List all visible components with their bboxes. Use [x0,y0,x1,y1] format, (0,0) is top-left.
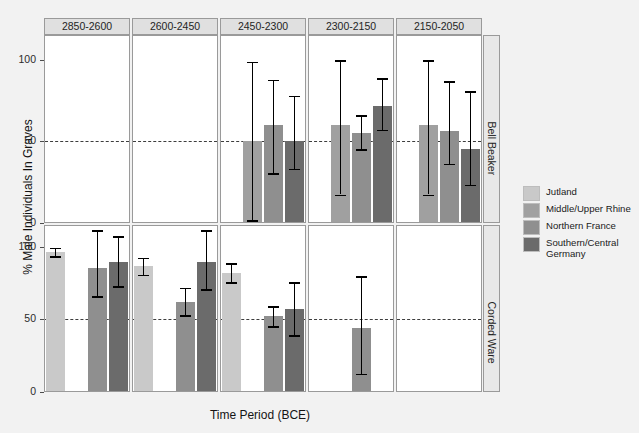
error-bar-line [340,60,342,194]
error-bar-line [97,230,99,296]
error-bar-line [361,276,363,374]
legend-label: Middle/Upper Rhine [546,203,637,214]
error-bar-cap-upper [377,78,388,80]
error-bar-line [118,236,120,286]
chart-panel [396,35,482,223]
chart-panel [220,225,306,392]
error-bar-cap-upper [247,62,258,64]
chart-panel [220,35,306,223]
error-bar-cap-lower [247,220,258,222]
error-bar-cap-lower [50,256,61,258]
error-bar-cap-lower [113,286,124,288]
chart-panel [44,35,130,223]
y-axis-tick-mark [40,223,44,224]
chart-panel [308,35,394,223]
error-bar-cap-lower [289,169,300,171]
error-bar-line [361,115,363,149]
chart-panel [132,35,218,223]
facet-strip-row-label: Corded Ware [486,301,498,316]
y-axis-tick-label: 50 [14,312,36,324]
legend-label: Southern/Central Germany [546,237,637,259]
chart-panel [44,225,130,392]
error-bar-cap-upper [50,248,61,250]
legend-swatch-northern-france [523,220,540,235]
error-bar-cap-upper [138,258,149,260]
y-axis-tick-mark [40,392,44,393]
error-bar-cap-upper [92,230,103,232]
bar [222,273,240,391]
error-bar-cap-lower [356,374,367,376]
legend-item: Northern France [523,220,637,235]
error-bar-cap-lower [180,315,191,317]
y-axis-tick-label: 100 [14,53,36,65]
chart-panel [308,225,394,392]
y-axis-label: % Male Individuals In Graves [21,77,35,317]
error-bar-cap-lower [268,173,279,175]
error-bar-cap-lower [201,289,212,291]
legend-label: Northern France [546,220,637,231]
error-bar-cap-upper [113,236,124,238]
legend-swatch-middle-upper-rhine [523,203,540,218]
error-bar-cap-lower [335,195,346,197]
error-bar-cap-upper [465,91,476,93]
legend-item: Southern/Central Germany [523,237,637,259]
error-bar-line [273,80,275,174]
y-axis-tick-label: 0 [14,385,36,397]
y-axis-tick-label: 0 [14,216,36,228]
error-bar-cap-upper [268,80,279,82]
error-bar-cap-upper [180,288,191,290]
reference-line-50 [309,319,393,320]
error-bar-cap-upper [201,230,212,232]
reference-line-50 [397,141,481,142]
error-bar-cap-upper [423,60,434,62]
error-bar-cap-upper [268,306,279,308]
error-bar-line [428,60,430,194]
reference-line-50 [45,141,129,142]
legend-swatch-southern-central-germany [523,237,540,252]
error-bar-line [470,91,472,185]
facet-strip-column: 2150-2050 [396,18,482,35]
error-bar-cap-lower [92,296,103,298]
chart-panel [132,225,218,392]
error-bar-cap-upper [335,60,346,62]
legend-swatch-jutland [523,186,540,201]
error-bar-cap-lower [138,275,149,277]
reference-line-50 [133,141,217,142]
reference-line-50 [397,319,481,320]
facet-strip-column: 2600-2450 [132,18,218,35]
x-axis-label: Time Period (BCE) [30,408,490,422]
error-bar-cap-upper [356,276,367,278]
facet-strip-row-label: Bell Beaker [486,122,498,137]
chart-panel [396,225,482,392]
error-bar-cap-lower [289,335,300,337]
error-bar-line [449,81,451,163]
error-bar-cap-lower [423,195,434,197]
facet-strip-row: Corded Ware [483,225,500,392]
error-bar-cap-lower [356,149,367,151]
error-bar-line [185,288,187,315]
y-axis-tick-label: 100 [14,240,36,252]
error-bar-line [143,258,145,275]
error-bar-cap-lower [226,282,237,284]
error-bar-cap-lower [377,130,388,132]
legend-item: Jutland [523,186,637,201]
error-bar-cap-lower [268,326,279,328]
facet-strip-column: 2850-2600 [44,18,130,35]
error-bar-cap-upper [289,282,300,284]
chart-legend: Jutland Middle/Upper Rhine Northern Fran… [523,186,637,261]
y-axis-tick-label: 50 [14,134,36,146]
bar [46,252,64,391]
error-bar-line [206,230,208,289]
error-bar-cap-lower [465,185,476,187]
bar [134,266,152,391]
error-bar-cap-upper [289,96,300,98]
error-bar-line [252,62,254,221]
facet-strip-row: Bell Beaker [483,35,500,223]
error-bar-cap-upper [226,263,237,265]
facet-strip-column: 2300-2150 [308,18,394,35]
legend-item: Middle/Upper Rhine [523,203,637,218]
legend-label: Jutland [546,186,637,197]
error-bar-cap-upper [444,81,455,83]
facet-strip-column: 2450-2300 [220,18,306,35]
error-bar-line [294,96,296,169]
